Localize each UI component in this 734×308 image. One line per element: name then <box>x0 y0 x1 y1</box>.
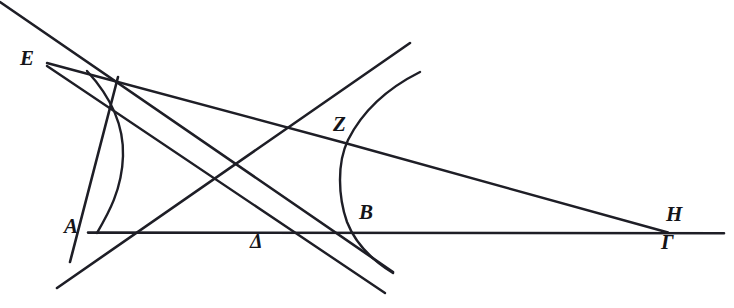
figure-canvas <box>0 0 734 308</box>
point-label-E: E <box>20 48 34 69</box>
geometry-figure: E Z A B H Γ Δ <box>0 0 734 308</box>
point-label-gamma: Γ <box>661 232 674 253</box>
point-label-delta: Δ <box>250 231 263 251</box>
horizontal-base-line <box>88 233 724 234</box>
point-label-B: B <box>359 202 373 223</box>
line-E-to-Z-to-H <box>47 63 668 233</box>
point-label-A: A <box>64 216 78 237</box>
point-label-Z: Z <box>333 114 346 135</box>
point-label-H: H <box>666 204 682 225</box>
